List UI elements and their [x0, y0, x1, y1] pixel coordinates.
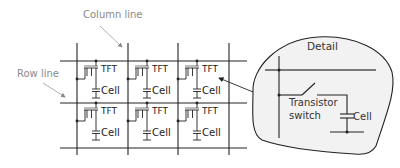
cell-label: Cell: [152, 85, 171, 96]
tft-label: TFT: [201, 64, 219, 74]
tft-label: TFT: [201, 106, 219, 116]
column-line-annotation: Column line: [83, 9, 143, 47]
column-line-label: Column line: [83, 9, 143, 20]
tft-label: TFT: [100, 106, 118, 116]
column-line-arrow-icon: [100, 26, 122, 47]
row-line-label: Row line: [17, 68, 59, 79]
junction-dot: [76, 78, 79, 81]
junction-dot: [278, 94, 281, 97]
junction-dot: [95, 60, 98, 63]
transistor-switch-label-2: switch: [289, 110, 321, 121]
cell-label: Cell: [202, 127, 221, 138]
tft-symbol-icon: [77, 61, 100, 98]
detail-callout: Detail Transistor switch Cell: [219, 37, 393, 154]
cell-label: Cell: [152, 127, 171, 138]
detail-pointer-arrow-icon: [219, 78, 253, 92]
cell-label: Cell: [101, 85, 120, 96]
junction-dot: [346, 131, 349, 134]
cell-label: Cell: [202, 85, 221, 96]
transistor-switch-label: Transistor: [288, 97, 338, 108]
junction-dot: [278, 69, 281, 72]
cell-label: Cell: [101, 127, 120, 138]
grid-lines: [60, 43, 247, 155]
detail-cell-label: Cell: [353, 111, 372, 122]
cell-labels: TFT Cell TFT Cell TFT Cell TFT Cell TFT …: [100, 64, 221, 138]
tft-label: TFT: [151, 106, 169, 116]
tft-array-diagram: Column line Row line: [0, 0, 400, 168]
row-line-annotation: Row line: [17, 68, 65, 97]
tft-label: TFT: [151, 64, 169, 74]
row-line-arrow-icon: [43, 83, 65, 97]
pixel-cell: [76, 60, 100, 98]
tft-label: TFT: [100, 64, 118, 74]
detail-title: Detail: [307, 40, 338, 52]
